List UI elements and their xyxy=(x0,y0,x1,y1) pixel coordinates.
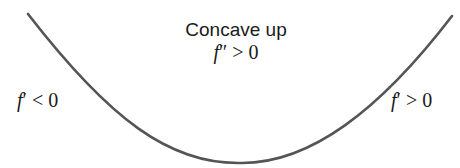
concave-up-title: Concave up xyxy=(0,19,460,41)
right-derivative-label: f′ > 0 xyxy=(391,89,432,112)
second-derivative-label: f″ > 0 xyxy=(0,41,460,64)
concave-up-diagram: Concave up f″ > 0 f′ < 0 f′ > 0 xyxy=(0,0,460,168)
relation-symbol: > xyxy=(401,89,422,111)
left-derivative-label: f′ < 0 xyxy=(17,89,58,112)
relation-symbol: > xyxy=(227,41,248,63)
value: 0 xyxy=(249,41,259,63)
relation-symbol: < xyxy=(27,89,48,111)
value: 0 xyxy=(422,89,432,111)
value: 0 xyxy=(48,89,58,111)
